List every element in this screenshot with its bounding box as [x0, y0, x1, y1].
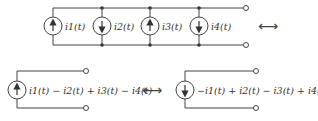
source-label: i1(t) — [65, 21, 86, 32]
circuit-diagram: i1(t) i2(t) i3(t) i4(t) — [0, 0, 318, 121]
source-label: i4(t) — [211, 21, 232, 32]
equivalence-arrow-bottom: ⟷ — [142, 82, 162, 98]
source-label: i2(t) — [114, 21, 135, 32]
source-label: i3(t) — [162, 21, 183, 32]
current-source-2: i2(t) — [93, 6, 135, 47]
bottom-left-circuit: i1(t) − i2(t) + i3(t) − i4(t) — [8, 69, 153, 111]
current-source-1: i1(t) — [44, 8, 86, 45]
bottom-right-circuit: −i1(t) + i2(t) − i3(t) + i4(t) — [176, 69, 318, 111]
current-source-4: i4(t) — [190, 6, 232, 47]
combined-source-label: i1(t) − i2(t) + i3(t) − i4(t) — [29, 85, 153, 96]
combined-source-label: −i1(t) + i2(t) − i3(t) + i4(t) — [197, 85, 318, 96]
current-source-3: i3(t) — [141, 6, 183, 47]
terminal-bottom — [244, 43, 249, 48]
equivalence-arrow-top: ⟷ — [258, 18, 278, 34]
terminal-top — [244, 6, 249, 11]
top-circuit: i1(t) i2(t) i3(t) i4(t) — [44, 6, 249, 48]
